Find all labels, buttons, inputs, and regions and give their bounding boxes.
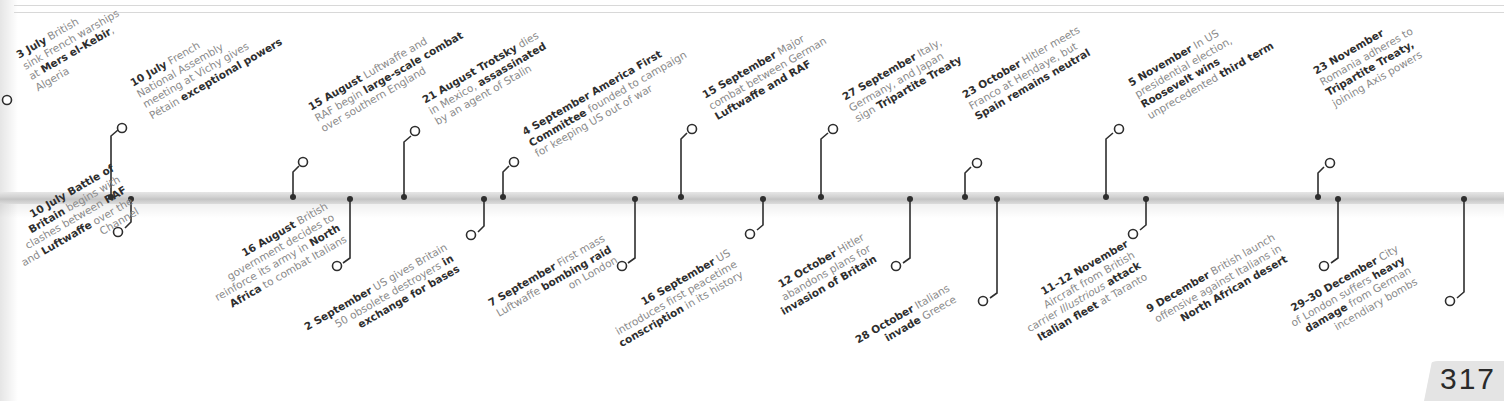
connector-11-12-november: [1129, 199, 1147, 239]
connector-7-september: [618, 199, 636, 271]
connector-12-october: [892, 199, 911, 271]
connector-4-september: [503, 158, 519, 198]
connector-29-30-december: [1446, 199, 1465, 306]
connector-21-august: [404, 127, 420, 198]
connector-27-september: [821, 125, 838, 198]
page-number: 317: [1440, 362, 1496, 396]
bar-dots: [108, 194, 1467, 202]
connector-15-august: [293, 158, 308, 198]
connector-9-december: [1320, 199, 1339, 271]
connector-3-july: [3, 96, 12, 105]
connector-28-october: [979, 199, 998, 306]
connector-23-october: [965, 159, 982, 198]
connector-23-november: [1318, 159, 1335, 198]
connector-15-september: [681, 125, 697, 198]
connector-16-september: [746, 199, 764, 239]
connector-2-september: [467, 199, 485, 240]
connector-5-november: [1106, 125, 1124, 198]
